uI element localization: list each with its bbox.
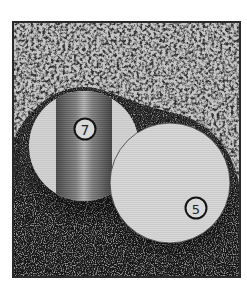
ball-5-number: 5 [192,202,200,217]
ball-7-number: 7 [81,122,90,138]
billiard-ball-5: 5 [110,123,230,243]
ball-7-number-badge: 7 [75,119,96,140]
billiard-balls-illustration: 7 5 [0,0,247,289]
ball-5-number-badge: 5 [186,198,207,219]
